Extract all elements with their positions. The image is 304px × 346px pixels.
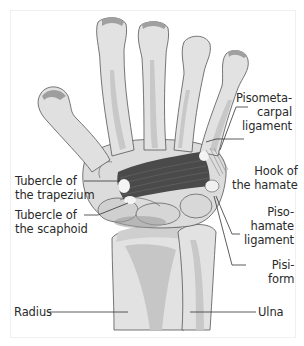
- label-pisometacarpal-ligament: Pisometa- carpal ligament: [236, 91, 292, 133]
- label-pisohamate-ligament: Piso- hamate ligament: [244, 205, 294, 247]
- label-tubercle-trapezium: Tubercle of the trapezium: [15, 174, 95, 202]
- label-radius: Radius: [14, 305, 52, 319]
- label-pisiform: Pisi- form: [268, 258, 294, 286]
- thumb-bones: [38, 87, 110, 172]
- label-tubercle-scaphoid: Tubercle of the scaphoid: [15, 208, 88, 236]
- label-hook-of-hamate: Hook of the hamate: [232, 164, 298, 192]
- ulna-bone: [178, 225, 216, 331]
- label-ulna: Ulna: [258, 305, 284, 319]
